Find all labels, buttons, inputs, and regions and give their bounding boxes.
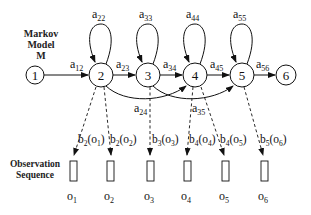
state-label-3: 3 [145,68,152,83]
label-a24: a24 [134,101,147,117]
label-a12: a12 [70,57,83,73]
hmm-diagram: 1 2 3 4 5 6 a12 a23 a34 a45 a56 a22 a33 … [0,0,311,215]
obs-label-1: o1 [67,189,77,205]
loop-a55 [231,24,253,64]
obs-label-5: o5 [219,189,229,205]
state-label-4: 4 [192,68,199,83]
label-a33: a33 [139,7,152,23]
loop-a22 [90,24,112,64]
state-label-2: 2 [98,68,105,83]
loop-a44 [184,24,206,64]
observation-box-6 [261,161,268,181]
observation-box-1 [70,161,77,181]
label-a56: a56 [256,57,269,73]
loop-a33 [137,24,159,64]
obs-label-2: o2 [104,189,114,205]
label-a23: a23 [116,57,129,73]
state-label-1: 1 [32,68,39,83]
state-label-6: 6 [283,68,290,83]
label-a35: a35 [192,101,205,117]
observation-box-3 [147,161,154,181]
observation-box-2 [107,161,114,181]
self-loops [90,24,253,64]
emission-labels: b2(o1) b2(o2) b3(o3) b4(o4) b4(o5) b5(o6… [78,133,287,148]
label-a34: a34 [163,57,176,73]
observation-box-5 [222,161,229,181]
label-a44: a44 [186,7,199,23]
emission-label-4: b4(o5) [220,133,247,148]
obs-label-6: o6 [258,189,268,205]
obs-label-4: o4 [181,189,191,205]
emission-label-3: b4(o4) [189,133,216,148]
transition-labels: a12 a23 a34 a45 a56 a22 a33 a44 a55 a24 … [70,7,269,117]
observation-box-4 [184,161,191,181]
label-a45: a45 [210,57,223,73]
emission-label-2: b3(o3) [152,133,179,148]
state-label-5: 5 [239,68,246,83]
obs-label-3: o3 [144,189,154,205]
emission-label-0: b2(o1) [78,133,105,148]
label-a55: a55 [233,7,246,23]
emission-label-5: b5(o6) [260,133,287,148]
skip-transitions [106,86,233,99]
observation-labels: o1 o2 o3 o4 o5 o6 [67,189,268,205]
emission-label-1: b2(o2) [110,133,137,148]
label-a22: a22 [92,7,105,23]
observation-boxes [70,161,268,181]
